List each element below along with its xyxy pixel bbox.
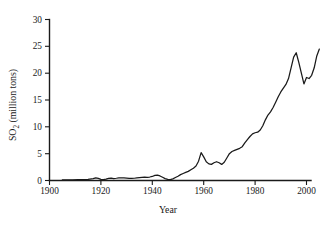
x-tick-label-1940: 1940 [143,186,162,196]
y-tick-label-25: 25 [33,41,43,51]
x-tick-label-1960: 1960 [194,186,213,196]
y-axis-title-rest: (million tons) [7,69,19,125]
x-tick-label-2000: 2000 [297,186,316,196]
x-tick-label-1900: 1900 [40,186,59,196]
y-axis-title-main: SO [7,129,18,142]
y-axis-tick-labels: 0 5 10 15 20 25 30 [33,15,43,186]
x-axis-title: Year [159,204,178,215]
y-tick-label-10: 10 [33,122,43,132]
y-tick-label-15: 15 [33,95,43,105]
chart-figure: SO2 (million tons) Year 0 5 10 15 20 25 … [0,0,321,226]
x-tick-label-1980: 1980 [246,186,265,196]
x-tick-label-1920: 1920 [92,186,111,196]
y-axis-title: SO2 (million tons) [7,69,21,141]
so2-emissions-line-chart: SO2 (million tons) Year 0 5 10 15 20 25 … [0,0,321,226]
y-tick-label-20: 20 [33,68,43,78]
y-tick-label-5: 5 [37,149,42,159]
x-axis-tick-labels: 1900 1920 1940 1960 1980 2000 [40,186,316,196]
y-tick-label-0: 0 [37,176,42,186]
y-tick-label-30: 30 [33,15,43,25]
so2-series-line [62,49,319,180]
